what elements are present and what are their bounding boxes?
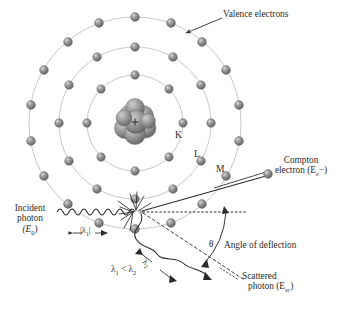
wavelength-comparison-label: λ1 < λ2: [111, 264, 136, 276]
nucleus: [115, 99, 157, 145]
valence-electrons-label: Valence electrons: [223, 9, 288, 19]
incident-photon-wave: [57, 209, 135, 215]
shell-label-l: L: [194, 149, 200, 160]
incident-photon-label-line1: Incident: [2, 203, 58, 213]
scattered-photon-label-line1: Scattered: [242, 271, 293, 281]
scattered-photon-label: Scattered photon (Esc): [242, 271, 293, 293]
compton-scattering-figure: Valence electrons K L M Compton electron…: [0, 0, 337, 316]
compton-electron-label-line2: electron (Ee−): [265, 165, 337, 177]
deflection-angle-arc: [203, 212, 226, 265]
incident-photon-label-line2: photon: [2, 213, 58, 223]
deflection-arc-tip-upper: [222, 206, 229, 214]
angle-of-deflection-label: Angle of deflection: [224, 240, 296, 250]
scattered-photon-label-line2: photon (Esc): [242, 281, 293, 293]
lambda1-label: |λ1|: [80, 226, 91, 237]
shell-label-m: M: [216, 164, 225, 175]
deflection-arc-tip-lower: [201, 259, 209, 268]
shell-label-k: K: [175, 130, 182, 141]
compton-electron-label: Compton electron (Ee−): [265, 155, 337, 177]
incident-photon-label-line3: (E0): [2, 224, 58, 236]
incident-photon-label: Incident photon (E0): [2, 203, 58, 236]
valence-electrons-pointer: [186, 18, 222, 33]
theta-symbol-label: θ: [209, 239, 213, 249]
compton-electron-label-line1: Compton: [265, 155, 337, 165]
